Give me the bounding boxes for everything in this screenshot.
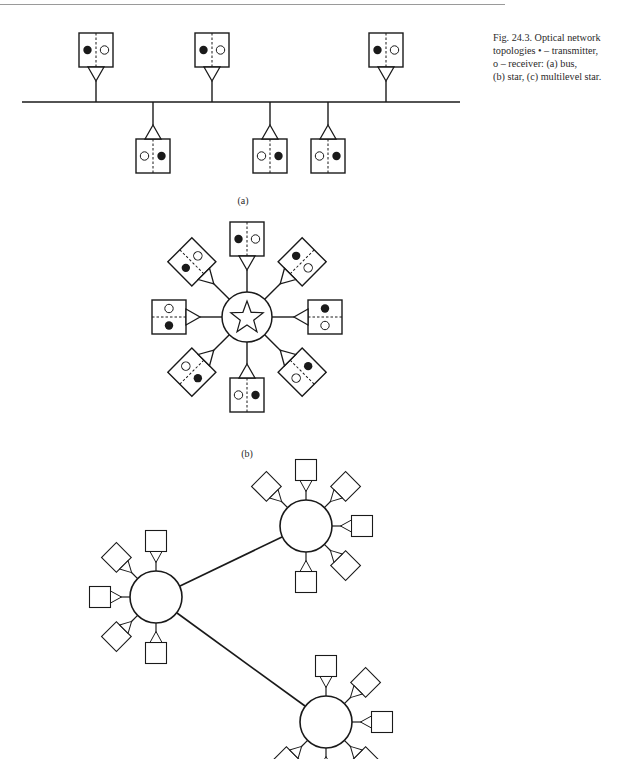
receiver-icon bbox=[315, 152, 323, 160]
receiver-icon bbox=[100, 46, 108, 54]
transmitter-icon bbox=[251, 391, 259, 399]
node-box bbox=[90, 587, 111, 608]
network-node bbox=[90, 587, 122, 608]
node-box bbox=[146, 531, 167, 552]
network-node bbox=[361, 712, 393, 733]
receiver-icon bbox=[321, 321, 329, 329]
node-box bbox=[352, 516, 373, 537]
coupler-icon bbox=[300, 481, 312, 492]
node-box bbox=[146, 643, 167, 664]
receiver-icon bbox=[216, 46, 224, 54]
network-node bbox=[253, 125, 287, 173]
transmitter-icon bbox=[165, 321, 173, 329]
coupler-icon bbox=[186, 309, 200, 325]
coupler-icon bbox=[150, 552, 162, 563]
trunk-line bbox=[180, 537, 282, 586]
transmitter-icon bbox=[321, 304, 329, 312]
trunk-line bbox=[177, 613, 305, 706]
transmitter-icon bbox=[274, 152, 282, 160]
transmitter-icon bbox=[157, 152, 165, 160]
node-box bbox=[316, 656, 337, 677]
network-topologies-diagram: (a) (b) bbox=[0, 0, 629, 759]
network-node bbox=[136, 125, 170, 173]
coupler-icon bbox=[361, 716, 372, 728]
coupler-icon bbox=[145, 125, 161, 139]
panel-label-b: (b) bbox=[241, 448, 253, 460]
coupler-icon bbox=[150, 632, 162, 643]
star-topology-panel bbox=[152, 222, 342, 412]
spoke-line bbox=[265, 284, 281, 300]
coupler-icon bbox=[341, 520, 352, 532]
network-node bbox=[146, 531, 167, 563]
coupler-icon bbox=[300, 561, 312, 572]
spoke-line bbox=[265, 335, 281, 351]
node-box bbox=[296, 460, 317, 481]
hub-node bbox=[130, 571, 182, 623]
node-box bbox=[372, 712, 393, 733]
panel-label-a: (a) bbox=[237, 195, 248, 207]
coupler-icon bbox=[262, 125, 278, 139]
network-node bbox=[369, 33, 403, 81]
receiver-icon bbox=[257, 152, 265, 160]
transmitter-icon bbox=[373, 46, 381, 54]
hub-node bbox=[280, 500, 332, 552]
network-node bbox=[195, 33, 229, 81]
network-node bbox=[146, 632, 167, 664]
node-box bbox=[296, 572, 317, 593]
coupler-icon bbox=[88, 67, 104, 81]
receiver-icon bbox=[251, 235, 259, 243]
network-node bbox=[230, 364, 264, 412]
coupler-icon bbox=[320, 677, 332, 688]
network-node bbox=[272, 739, 309, 759]
network-node bbox=[294, 300, 342, 334]
network-node bbox=[296, 561, 317, 593]
transmitter-icon bbox=[234, 235, 242, 243]
hub-node bbox=[300, 696, 352, 748]
network-node bbox=[152, 300, 200, 334]
spoke-line bbox=[214, 284, 230, 300]
coupler-icon bbox=[294, 309, 308, 325]
network-node bbox=[230, 222, 264, 270]
network-node bbox=[79, 33, 113, 81]
coupler-icon bbox=[378, 67, 394, 81]
spoke-line bbox=[214, 335, 230, 351]
transmitter-icon bbox=[332, 152, 340, 160]
network-node bbox=[296, 460, 317, 492]
transmitter-icon bbox=[83, 46, 91, 54]
network-node bbox=[316, 656, 337, 688]
coupler-icon bbox=[239, 364, 255, 378]
receiver-icon bbox=[234, 391, 242, 399]
coupler-icon bbox=[204, 67, 220, 81]
receiver-icon bbox=[390, 46, 398, 54]
multilevel-star-panel bbox=[90, 460, 393, 759]
transmitter-icon bbox=[199, 46, 207, 54]
network-node bbox=[341, 516, 373, 537]
coupler-icon bbox=[111, 591, 122, 603]
receiver-icon bbox=[140, 152, 148, 160]
coupler-icon bbox=[320, 125, 336, 139]
network-node bbox=[311, 125, 345, 173]
coupler-icon bbox=[239, 256, 255, 270]
bus-topology-panel bbox=[22, 33, 460, 173]
receiver-icon bbox=[165, 304, 173, 312]
network-node bbox=[343, 739, 380, 759]
